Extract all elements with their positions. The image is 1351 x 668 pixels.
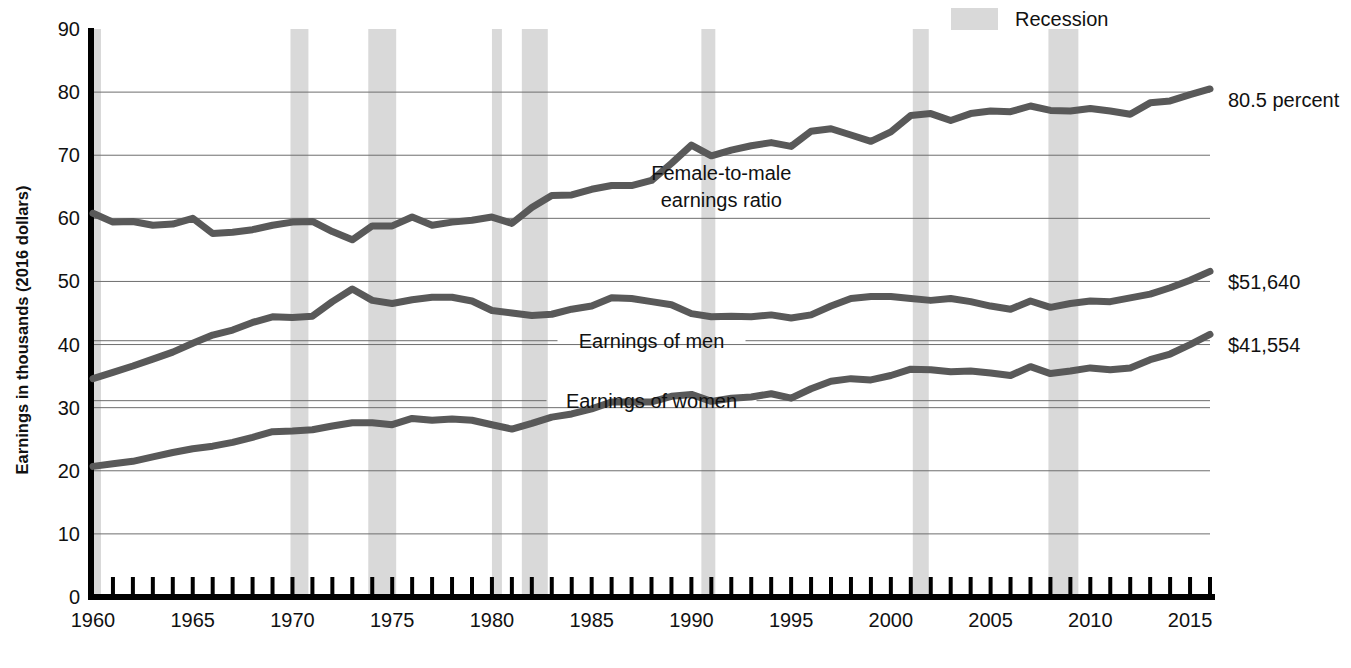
x-axis-tick-label: 1995 [769, 609, 814, 631]
x-axis-tick-label: 1990 [669, 609, 714, 631]
y-axis-tick-labels: 0102030405060708090 [58, 18, 80, 608]
series-end-label: 80.5 percent [1228, 89, 1340, 111]
series-end-label: $51,640 [1228, 271, 1300, 293]
series-end-labels: 80.5 percent$51,640$41,554 [1228, 89, 1340, 357]
x-axis-tick-label: 2010 [1068, 609, 1113, 631]
legend: Recession [951, 8, 1108, 30]
series-line [93, 271, 1210, 378]
legend-label-recession: Recession [1015, 8, 1108, 30]
y-axis-tick-label: 0 [69, 586, 80, 608]
x-axis-tick-label: 2005 [968, 609, 1013, 631]
y-axis-tick-label: 60 [58, 207, 80, 229]
recession-band [290, 29, 308, 597]
series-annotation-label: Earnings of men [579, 330, 725, 352]
y-axis-tick-label: 20 [58, 460, 80, 482]
x-axis-tick-label: 1975 [370, 609, 415, 631]
series-annotation-label: earnings ratio [661, 189, 782, 211]
y-axis-tick-label: 40 [58, 334, 80, 356]
x-axis-tick-label: 1960 [71, 609, 116, 631]
x-axis-tick-label: 1970 [270, 609, 315, 631]
earnings-gender-gap-chart: 0102030405060708090 19601965197019751980… [0, 0, 1351, 668]
y-axis-title-text: Earnings in thousands (2016 dollars) [13, 186, 31, 475]
x-axis-tick-label: 2000 [869, 609, 914, 631]
x-axis-tick-labels: 1960196519701975198019851990199520002005… [71, 609, 1213, 631]
recession-band [368, 29, 396, 597]
y-axis-tick-label: 30 [58, 397, 80, 419]
y-axis-tick-label: 70 [58, 144, 80, 166]
y-axis-tick-label: 90 [58, 18, 80, 40]
x-axis-tick-label: 1985 [569, 609, 614, 631]
y-axis-title: Earnings in thousands (2016 dollars) [13, 186, 31, 475]
recession-band [93, 29, 101, 597]
series-annotations: Female-to-maleearnings ratioEarnings of … [566, 162, 791, 411]
x-axis-tick-label: 1965 [170, 609, 215, 631]
y-axis-tick-label: 50 [58, 270, 80, 292]
y-gridlines [93, 92, 1210, 534]
chart-canvas: 0102030405060708090 19601965197019751980… [0, 0, 1351, 668]
series-annotation-label: Female-to-male [651, 162, 791, 184]
y-axis-tick-label: 80 [58, 81, 80, 103]
x-axis-tick-label: 1980 [470, 609, 515, 631]
y-axis-tick-label: 10 [58, 523, 80, 545]
x-axis-tick-label: 2015 [1168, 609, 1213, 631]
x-axis-ticks [113, 577, 1210, 594]
legend-swatch-recession [951, 8, 998, 30]
axes [88, 28, 1215, 597]
series-end-label: $41,554 [1228, 334, 1300, 356]
series-annotation-label: Earnings of women [566, 390, 737, 412]
